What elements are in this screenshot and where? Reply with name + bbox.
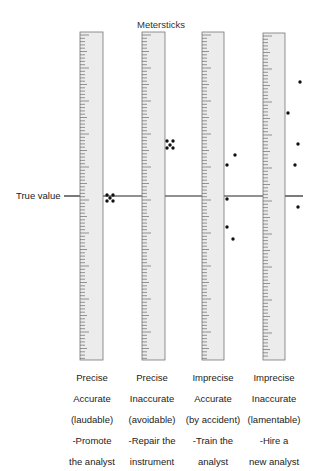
measurement-dot [225,225,228,228]
caption-line: Precise [117,373,187,384]
measurement-dot [111,199,114,202]
caption-line: instrument [117,457,187,468]
caption-line: Accurate [178,394,248,405]
measurement-dot [225,163,228,166]
caption-line: Imprecise [178,373,248,384]
caption-imprecise-inaccurate: Imprecise Inaccurate (lamentable) -Hire … [239,362,309,471]
caption-line: -Train the [178,436,248,447]
caption-line: new analyst [239,457,309,468]
measurement-dot [298,80,301,83]
measurement-dot [171,139,174,142]
measurement-dot [105,193,108,196]
caption-imprecise-accurate: Imprecise Accurate (by accident) -Train … [178,362,248,471]
caption-line: (by accident) [178,415,248,426]
caption-line: Imprecise [239,373,309,384]
measurement-dot [171,146,174,149]
measurement-dot [225,197,228,200]
caption-line: (lamentable) [239,415,309,426]
caption-line: analyst [178,457,248,468]
caption-line: Inaccurate [117,394,187,405]
measurement-dot [165,146,168,149]
measurement-dot [165,139,168,142]
measurement-dot [108,196,111,199]
meterstick-4 [263,33,285,360]
caption-line: (avoidable) [117,415,187,426]
measurement-dot [296,205,299,208]
measurement-dot [286,111,289,114]
measurement-dot [168,143,171,146]
measurement-dot [231,237,234,240]
caption-precise-inaccurate: Precise Inaccurate (avoidable) -Repair t… [117,362,187,471]
measurement-dot [296,142,299,145]
measurement-dot [105,199,108,202]
meterstick-3 [202,32,224,360]
measurement-dot [293,163,296,166]
caption-line: -Repair the [117,436,187,447]
caption-line: Inaccurate [239,394,309,405]
meterstick-1 [80,32,103,360]
measurement-dot [233,153,236,156]
measurement-dot [111,193,114,196]
meterstick-2 [142,32,165,360]
caption-line: -Hire a [239,436,309,447]
